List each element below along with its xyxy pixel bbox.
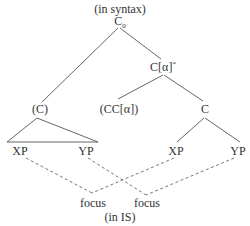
dashed-yp-right-to-focus-right [146, 158, 234, 195]
node-xp-right: XP [168, 145, 183, 157]
node-root: C0 [114, 15, 126, 30]
dashed-yp-left-to-focus-right [88, 158, 146, 195]
node-c-alpha: C[α]* [150, 61, 176, 73]
bottom-caption: (in IS) [105, 211, 136, 223]
node-root-label: C [114, 14, 122, 28]
edge-c-alpha-to-c-right [164, 75, 203, 101]
edge-c-alpha-to-cc-alpha [118, 75, 163, 99]
dashed-xp-left-to-focus-left [26, 158, 92, 193]
node-focus-right: focus [134, 197, 160, 209]
node-cc-alpha: (CC[α]) [100, 103, 138, 115]
node-c-paren: (C) [32, 103, 48, 115]
node-xp-left: XP [12, 145, 27, 157]
triangle-under-c-paren [7, 118, 98, 142]
node-yp-left: YP [78, 145, 93, 157]
node-yp-right: YP [230, 145, 245, 157]
node-c-alpha-label: C[α] [150, 60, 172, 74]
edge-c-right-to-xp-right [177, 118, 204, 142]
edge-root-to-c-alpha [120, 28, 161, 59]
node-root-subscript: 0 [122, 22, 126, 30]
node-c-right: C [201, 103, 209, 115]
edge-root-to-c-paren [42, 28, 118, 102]
edge-c-right-to-yp-right [205, 118, 240, 142]
node-focus-left: focus [80, 197, 106, 209]
node-c-alpha-superscript: * [172, 60, 176, 68]
dashed-xp-right-to-focus-left [92, 158, 174, 193]
